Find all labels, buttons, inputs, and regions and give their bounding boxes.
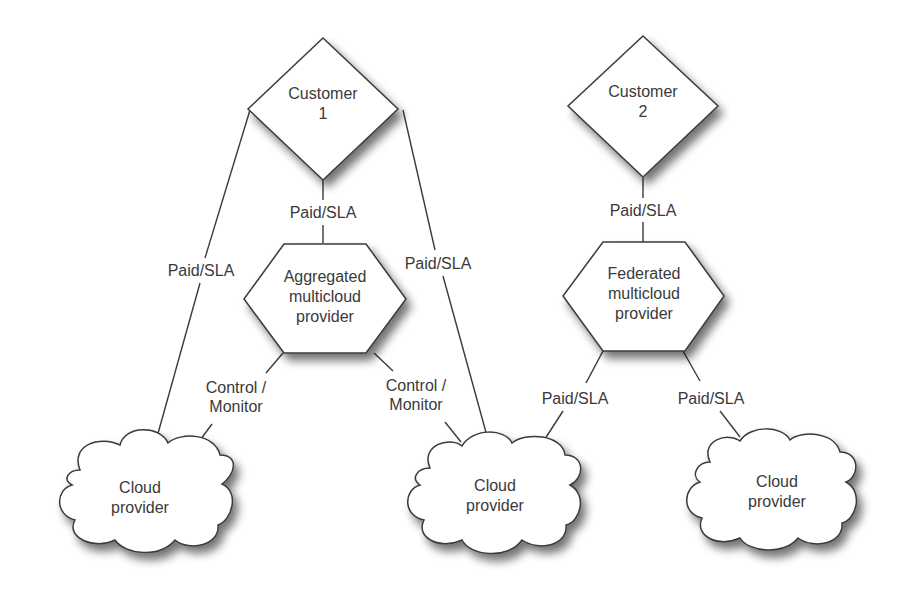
cloud-middle-label: Cloud provider bbox=[445, 476, 545, 516]
customer2-label: Customer 2 bbox=[593, 82, 693, 122]
edge-label-c1-aggregated: Paid/SLA bbox=[278, 203, 368, 222]
cloud-left-line1: Cloud bbox=[90, 478, 190, 498]
cloud-right-line1: Cloud bbox=[727, 472, 827, 492]
edge-fed-cloud-right-top bbox=[683, 351, 700, 381]
federated-line3: provider bbox=[584, 304, 704, 324]
edge-label-fed-cloud-right: Paid/SLA bbox=[666, 389, 756, 408]
edge-label-c1-cloud-middle: Paid/SLA bbox=[393, 254, 483, 273]
cloud-right-label: Cloud provider bbox=[727, 472, 827, 512]
edge-c1-cloud-middle bbox=[403, 110, 435, 250]
edge-label-agg-cloud-middle: Control / Monitor bbox=[366, 376, 466, 414]
edge-fed-cloud-right-bottom bbox=[720, 411, 740, 437]
cloud-middle-line2: provider bbox=[445, 496, 545, 516]
edge-label-agg-cloud-middle-line1: Control / bbox=[366, 376, 466, 395]
customer2-line1: Customer bbox=[593, 82, 693, 102]
cloud-left-line2: provider bbox=[90, 498, 190, 518]
customer2-line2: 2 bbox=[593, 102, 693, 122]
aggregated-label: Aggregated multicloud provider bbox=[265, 267, 385, 327]
customer1-line1: Customer bbox=[273, 84, 373, 104]
edge-agg-cloud-left-top bbox=[266, 353, 283, 373]
edge-label-agg-cloud-left-line1: Control / bbox=[186, 378, 286, 397]
edge-c1-cloud-left bbox=[205, 110, 250, 258]
customer1-label: Customer 1 bbox=[273, 84, 373, 124]
customer1-line2: 1 bbox=[273, 104, 373, 124]
edge-fed-cloud-middle-top bbox=[586, 351, 603, 383]
cloud-left-label: Cloud provider bbox=[90, 478, 190, 518]
edge-agg-cloud-middle-top bbox=[374, 353, 393, 371]
edge-agg-cloud-middle-bottom bbox=[445, 422, 461, 442]
edge-label-c2-federated: Paid/SLA bbox=[598, 201, 688, 220]
federated-line2: multicloud bbox=[584, 284, 704, 304]
cloud-right-line2: provider bbox=[727, 492, 827, 512]
edge-label-agg-cloud-left: Control / Monitor bbox=[186, 378, 286, 416]
aggregated-line2: multicloud bbox=[265, 287, 385, 307]
edge-label-c1-cloud-left: Paid/SLA bbox=[156, 261, 246, 280]
edge-label-agg-cloud-left-line2: Monitor bbox=[186, 397, 286, 416]
federated-label: Federated multicloud provider bbox=[584, 264, 704, 324]
aggregated-line1: Aggregated bbox=[265, 267, 385, 287]
aggregated-line3: provider bbox=[265, 307, 385, 327]
cloud-middle-line1: Cloud bbox=[445, 476, 545, 496]
edge-label-agg-cloud-middle-line2: Monitor bbox=[366, 395, 466, 414]
federated-line1: Federated bbox=[584, 264, 704, 284]
edge-label-fed-cloud-middle: Paid/SLA bbox=[530, 389, 620, 408]
